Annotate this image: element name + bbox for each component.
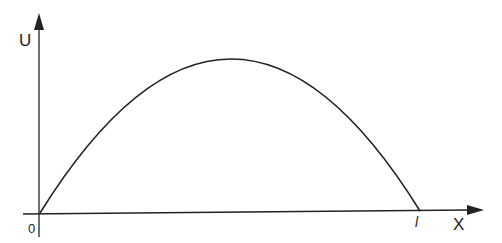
- origin-label: 0: [28, 221, 35, 236]
- diagram-canvas: U 0 l X: [0, 0, 502, 243]
- x-axis-arrow-icon: [467, 205, 484, 215]
- x-axis: [23, 210, 468, 214]
- x-axis-label: X: [453, 215, 464, 234]
- y-axis-label: U: [19, 31, 31, 50]
- parabola-curve: [40, 59, 420, 213]
- x-end-label: l: [415, 214, 419, 230]
- y-axis-arrow-icon: [34, 13, 44, 30]
